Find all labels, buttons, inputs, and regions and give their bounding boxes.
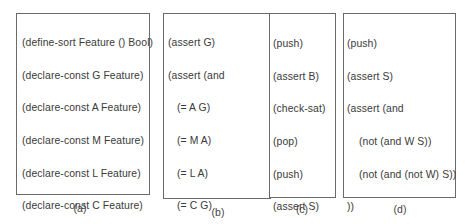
panel-b-code: (assert G) (assert (and (= A G) (= M A) … bbox=[168, 16, 254, 224]
code-line: (declare-const A Feature) bbox=[22, 103, 153, 114]
panel-c-box: (push) (assert B) (check-sat) (pop) (pus… bbox=[269, 13, 336, 198]
panel-a-box: (define-sort Feature () Bool) (declare-c… bbox=[16, 13, 150, 195]
panel-c-caption: (c) bbox=[282, 203, 322, 215]
code-line: (assert S) bbox=[347, 72, 456, 83]
code-line: (pop) bbox=[273, 137, 326, 148]
code-line: (push) bbox=[347, 39, 456, 50]
code-line: (= L A) bbox=[168, 169, 254, 180]
code-line: (declare-const L Feature) bbox=[22, 169, 153, 180]
panel-d-code: (push) (assert S) (assert (and (not (and… bbox=[347, 17, 456, 224]
code-line: (push) bbox=[273, 39, 326, 50]
code-line: (define-sort Feature () Bool) bbox=[22, 38, 153, 49]
panel-b-caption: (b) bbox=[198, 206, 238, 218]
code-line: (check-sat) bbox=[273, 104, 326, 115]
code-line: (assert G) bbox=[168, 38, 254, 49]
code-line: (= A G) bbox=[168, 103, 254, 114]
panel-c-code: (push) (assert B) (check-sat) (pop) (pus… bbox=[273, 17, 326, 224]
code-line: (assert (and bbox=[168, 71, 254, 82]
code-line: (assert (and bbox=[347, 104, 456, 115]
code-line: (not (and (not W) S)) bbox=[347, 170, 456, 181]
panel-a-code: (define-sort Feature () Bool) (declare-c… bbox=[22, 16, 153, 224]
panel-d-box: (push) (assert S) (assert (and (not (and… bbox=[343, 13, 456, 198]
code-line: (push) bbox=[273, 170, 326, 181]
panel-d-caption: (d) bbox=[380, 203, 420, 215]
code-line: (not (and W S)) bbox=[347, 137, 456, 148]
code-line: (declare-const G Feature) bbox=[22, 71, 153, 82]
code-line: (assert B) bbox=[273, 72, 326, 83]
code-line: (= M A) bbox=[168, 136, 254, 147]
code-line: (declare-const M Feature) bbox=[22, 136, 153, 147]
panel-a-caption: (a) bbox=[60, 202, 100, 214]
panel-b-box: (assert G) (assert (and (= A G) (= M A) … bbox=[163, 13, 271, 199]
